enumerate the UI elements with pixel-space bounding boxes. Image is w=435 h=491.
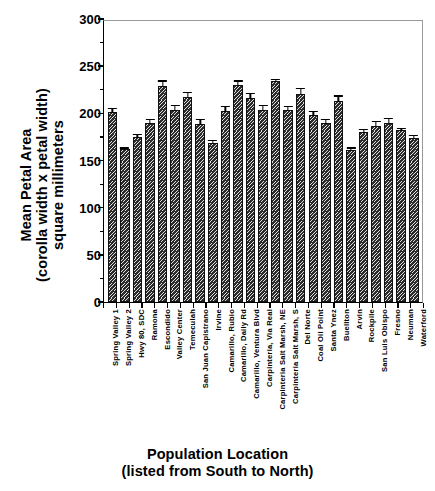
bar-slot xyxy=(332,21,345,302)
error-bar-cap xyxy=(359,129,368,130)
x-tick-mark xyxy=(308,303,309,308)
y-tick-label: 0 xyxy=(94,295,101,310)
error-bar xyxy=(124,147,125,150)
error-bar-cap xyxy=(108,108,117,109)
x-tick-mark xyxy=(269,303,270,308)
x-axis-ticks xyxy=(103,303,423,308)
x-tick-mark xyxy=(180,303,181,308)
x-tick-label: Buellton xyxy=(343,309,351,341)
bar-slot xyxy=(194,21,207,302)
error-bar xyxy=(413,135,414,139)
error-bar-cap xyxy=(334,95,343,96)
x-tick-label: Coal Oil Point xyxy=(317,309,325,362)
bar xyxy=(108,112,118,302)
bar xyxy=(396,130,406,302)
y-tick-label: 50 xyxy=(87,247,101,262)
bar-slot xyxy=(119,21,132,302)
error-bar-cap xyxy=(346,147,355,148)
bar-slot xyxy=(156,21,169,302)
x-tick-label: Escondido xyxy=(164,309,172,350)
bar-slot xyxy=(345,21,358,302)
y-tick-label: 200 xyxy=(79,106,101,121)
bar-chart-figure: Mean Petal Area (corolla width x petal w… xyxy=(0,0,435,491)
bar-slot xyxy=(232,21,245,302)
bar xyxy=(258,110,268,302)
error-bar xyxy=(313,111,314,117)
bar xyxy=(233,85,243,302)
y-minor-tick-mark xyxy=(100,278,104,279)
error-bar-cap xyxy=(233,80,242,81)
error-bar-cap xyxy=(259,105,268,106)
bar xyxy=(296,94,306,302)
x-tick-label: Carpinteria Salt Marsh, S xyxy=(292,309,300,404)
error-bar xyxy=(250,93,251,100)
x-tick-mark xyxy=(103,303,104,308)
bar-slot xyxy=(244,21,257,302)
bar xyxy=(120,149,130,302)
bar-slot xyxy=(181,21,194,302)
error-bar-cap xyxy=(296,88,305,89)
error-bar-cap xyxy=(271,79,280,80)
x-tick-label: Irvine xyxy=(215,309,223,330)
error-bar-cap xyxy=(321,119,330,120)
y-axis-title-line-3: square millimeters xyxy=(50,120,66,250)
error-bar xyxy=(225,106,226,112)
bar-slot xyxy=(282,21,295,302)
bar-slot xyxy=(131,21,144,302)
error-bar xyxy=(338,95,339,102)
error-bar xyxy=(275,79,276,83)
error-bar xyxy=(200,119,201,125)
bar xyxy=(371,126,381,302)
x-tick-mark xyxy=(205,303,206,308)
error-bar-cap xyxy=(397,128,406,129)
bar-slot xyxy=(370,21,383,302)
y-minor-tick-mark xyxy=(100,231,104,232)
bar-slot xyxy=(294,21,307,302)
error-bar xyxy=(363,129,364,134)
x-tick-mark xyxy=(141,303,142,308)
x-tick-label: Camarillo, Daily Rd xyxy=(240,309,248,382)
error-bar xyxy=(325,119,326,124)
error-bar xyxy=(212,140,213,144)
x-tick-label: Hwy 80, SDC xyxy=(138,309,146,358)
error-bar-cap xyxy=(183,92,192,93)
bar xyxy=(346,150,356,302)
x-tick-mark xyxy=(116,303,117,308)
x-axis-title-line-1: Population Location xyxy=(0,446,435,463)
x-tick-mark xyxy=(423,303,424,308)
error-bar-cap xyxy=(158,80,167,81)
bar xyxy=(409,138,419,302)
y-axis-title: Mean Petal Area (corolla width x petal w… xyxy=(12,35,72,335)
bar xyxy=(283,110,293,302)
error-bar xyxy=(287,106,288,111)
x-tick-mark xyxy=(410,303,411,308)
bar-slot xyxy=(169,21,182,302)
error-bar-cap xyxy=(409,135,418,136)
bar xyxy=(271,81,281,302)
bar xyxy=(170,110,180,302)
error-bar-cap xyxy=(384,118,393,119)
x-tick-mark xyxy=(167,303,168,308)
x-tick-mark xyxy=(385,303,386,308)
x-tick-mark xyxy=(218,303,219,308)
bar xyxy=(195,124,205,302)
bar xyxy=(384,123,394,302)
bar-slot xyxy=(257,21,270,302)
x-tick-mark xyxy=(372,303,373,308)
x-tick-mark xyxy=(333,303,334,308)
y-minor-tick-mark xyxy=(100,89,104,90)
bar xyxy=(183,97,193,302)
x-tick-label: Spring Valley 2 xyxy=(125,309,133,366)
y-tick-label: 150 xyxy=(79,153,101,168)
bar-slot xyxy=(307,21,320,302)
x-tick-label: Waterford xyxy=(420,309,428,346)
y-tick-label: 100 xyxy=(79,200,101,215)
x-tick-label: Valley Center xyxy=(176,309,184,359)
error-bar-cap xyxy=(309,111,318,112)
x-tick-label: San Juan Capistrano xyxy=(202,309,210,388)
error-bar-cap xyxy=(221,106,230,107)
bar-slot xyxy=(408,21,421,302)
y-axis-title-line-2: (corolla width x petal width) xyxy=(34,88,50,282)
error-bar xyxy=(174,105,175,111)
x-axis-tick-labels: Spring Valley 1Spring Valley 2Hwy 80, SD… xyxy=(103,309,423,434)
